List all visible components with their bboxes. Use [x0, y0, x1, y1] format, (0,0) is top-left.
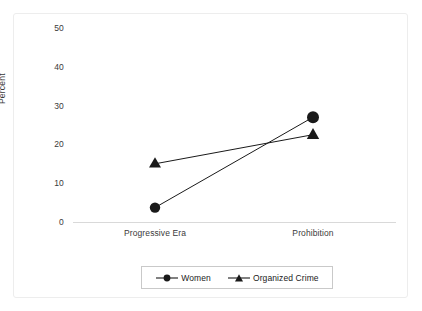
triangle-marker-icon [227, 272, 251, 284]
data-point-organized-crime-prohibition [307, 128, 319, 139]
circle-marker-icon [155, 272, 179, 284]
series-organized-crime [149, 128, 319, 168]
x-tick-label-progressive-era: Progressive Era [124, 228, 186, 239]
chart-figure: Percent 50 40 30 20 10 0 Progressive Era… [0, 0, 422, 311]
legend-label-women: Women [181, 273, 211, 283]
legend-item-organized-crime[interactable]: Organized Crime [227, 272, 319, 284]
data-point-organized-crime-progressive-era [149, 157, 161, 167]
data-point-women-progressive-era [150, 202, 160, 212]
chart-legend: Women Organized Crime [141, 266, 333, 289]
data-point-women-prohibition [307, 111, 319, 123]
legend-item-women[interactable]: Women [155, 272, 211, 284]
series-layer [0, 0, 422, 311]
legend-label-organized-crime: Organized Crime [253, 273, 319, 283]
x-tick-label-prohibition: Prohibition [292, 228, 333, 239]
series-women [150, 111, 319, 213]
